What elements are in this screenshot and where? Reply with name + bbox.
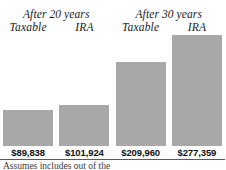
bar-slot-ira-20 [56, 35, 112, 146]
footnote-divider [0, 159, 225, 160]
column-header-row: Taxable IRA Taxable IRA [0, 20, 225, 35]
footnote-text: Assumes includes out of the [3, 161, 225, 170]
column-header-ira-20: IRA [56, 20, 112, 35]
bar-ira-30 [172, 35, 222, 146]
bar-slot-taxable-30 [113, 35, 169, 146]
value-label-taxable-30: $209,960 [113, 146, 169, 159]
bar-slot-taxable-20 [0, 35, 56, 146]
value-label-row: $89,838 $101,924 $209,960 $277,359 [0, 146, 225, 159]
bar-taxable-20 [3, 110, 53, 146]
column-header-taxable-30: Taxable [113, 20, 169, 35]
bar-taxable-30 [116, 62, 166, 146]
value-label-ira-20: $101,924 [56, 146, 112, 159]
group-header-row: After 20 years After 30 years [0, 7, 225, 21]
plot-area [0, 35, 225, 146]
value-label-ira-30: $277,359 [169, 146, 225, 159]
group-header-after-20-years: After 20 years [0, 7, 113, 21]
bar-slot-ira-30 [169, 35, 225, 146]
column-header-ira-30: IRA [169, 20, 225, 35]
bar-chart: After 20 years After 30 years Taxable IR… [0, 0, 225, 170]
column-header-taxable-20: Taxable [0, 20, 56, 35]
group-header-after-30-years: After 30 years [113, 7, 226, 21]
bar-ira-20 [59, 105, 109, 146]
value-label-taxable-20: $89,838 [0, 146, 56, 159]
